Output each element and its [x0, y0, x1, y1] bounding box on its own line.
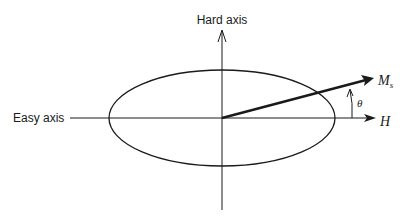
hard-axis-label: Hard axis	[197, 13, 248, 27]
h-field-label: H	[379, 114, 391, 129]
theta-label: θ	[357, 97, 363, 109]
easy-axis-label: Easy axis	[13, 111, 64, 125]
ms-label: Ms	[377, 73, 394, 90]
anisotropy-diagram: Hard axis Easy axis H Ms θ	[0, 0, 409, 223]
ms-vector-line	[222, 80, 366, 118]
ms-label-subscript: s	[390, 80, 394, 90]
theta-arc-arrow-icon	[347, 89, 353, 97]
